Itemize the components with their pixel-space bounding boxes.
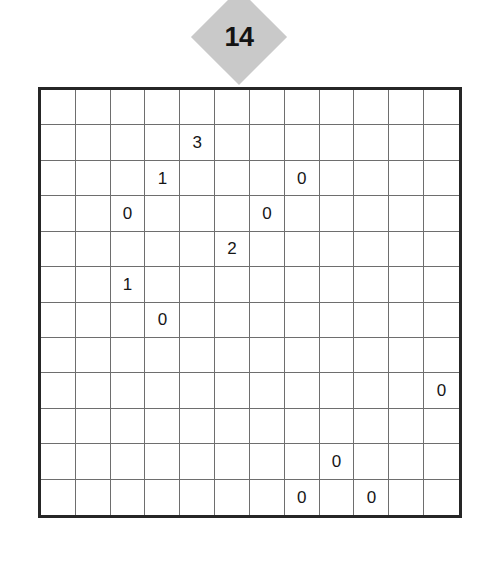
grid-cell-empty[interactable] bbox=[320, 480, 355, 515]
grid-cell-empty[interactable] bbox=[389, 444, 424, 479]
grid-cell-empty[interactable] bbox=[41, 267, 76, 302]
grid-cell-clue[interactable]: 2 bbox=[215, 232, 250, 267]
grid-cell-empty[interactable] bbox=[320, 267, 355, 302]
grid-cell-empty[interactable] bbox=[41, 196, 76, 231]
grid-cell-empty[interactable] bbox=[424, 338, 459, 373]
grid-cell-empty[interactable] bbox=[76, 232, 111, 267]
grid-cell-empty[interactable] bbox=[389, 125, 424, 160]
grid-cell-empty[interactable] bbox=[180, 373, 215, 408]
grid-cell-empty[interactable] bbox=[76, 161, 111, 196]
grid-cell-empty[interactable] bbox=[250, 161, 285, 196]
grid-cell-empty[interactable] bbox=[389, 480, 424, 515]
grid-cell-empty[interactable] bbox=[111, 303, 146, 338]
grid-cell-empty[interactable] bbox=[145, 373, 180, 408]
grid-cell-empty[interactable] bbox=[250, 480, 285, 515]
grid-cell-empty[interactable] bbox=[215, 480, 250, 515]
grid-cell-empty[interactable] bbox=[354, 125, 389, 160]
grid-cell-empty[interactable] bbox=[111, 90, 146, 125]
grid-cell-empty[interactable] bbox=[215, 444, 250, 479]
grid-cell-empty[interactable] bbox=[215, 161, 250, 196]
grid-cell-empty[interactable] bbox=[145, 90, 180, 125]
grid-cell-empty[interactable] bbox=[354, 196, 389, 231]
grid-cell-clue[interactable]: 0 bbox=[285, 161, 320, 196]
grid-cell-empty[interactable] bbox=[180, 267, 215, 302]
grid-cell-empty[interactable] bbox=[389, 196, 424, 231]
grid-cell-empty[interactable] bbox=[320, 373, 355, 408]
grid-cell-empty[interactable] bbox=[354, 444, 389, 479]
grid-cell-empty[interactable] bbox=[285, 409, 320, 444]
grid-cell-empty[interactable] bbox=[250, 125, 285, 160]
grid-cell-empty[interactable] bbox=[145, 125, 180, 160]
grid-cell-empty[interactable] bbox=[320, 196, 355, 231]
grid-cell-empty[interactable] bbox=[250, 232, 285, 267]
grid-cell-empty[interactable] bbox=[76, 90, 111, 125]
grid-cell-empty[interactable] bbox=[285, 338, 320, 373]
grid-cell-clue[interactable]: 0 bbox=[424, 373, 459, 408]
grid-cell-clue[interactable]: 0 bbox=[320, 444, 355, 479]
grid-cell-empty[interactable] bbox=[180, 161, 215, 196]
grid-cell-empty[interactable] bbox=[180, 444, 215, 479]
grid-cell-empty[interactable] bbox=[320, 232, 355, 267]
grid-cell-empty[interactable] bbox=[354, 303, 389, 338]
grid-cell-empty[interactable] bbox=[111, 125, 146, 160]
grid-cell-empty[interactable] bbox=[250, 373, 285, 408]
grid-cell-empty[interactable] bbox=[424, 161, 459, 196]
grid-cell-empty[interactable] bbox=[424, 267, 459, 302]
grid-cell-empty[interactable] bbox=[76, 303, 111, 338]
grid-cell-clue[interactable]: 0 bbox=[145, 303, 180, 338]
grid-cell-empty[interactable] bbox=[320, 338, 355, 373]
grid-cell-empty[interactable] bbox=[389, 267, 424, 302]
grid-cell-empty[interactable] bbox=[424, 480, 459, 515]
grid-cell-empty[interactable] bbox=[215, 409, 250, 444]
grid-cell-empty[interactable] bbox=[111, 444, 146, 479]
grid-cell-empty[interactable] bbox=[354, 232, 389, 267]
grid-cell-empty[interactable] bbox=[285, 232, 320, 267]
grid-cell-empty[interactable] bbox=[250, 409, 285, 444]
grid-cell-empty[interactable] bbox=[389, 303, 424, 338]
grid-cell-empty[interactable] bbox=[41, 444, 76, 479]
grid-cell-clue[interactable]: 0 bbox=[354, 480, 389, 515]
grid-cell-empty[interactable] bbox=[41, 303, 76, 338]
grid-cell-empty[interactable] bbox=[389, 90, 424, 125]
grid-cell-empty[interactable] bbox=[41, 373, 76, 408]
grid-cell-empty[interactable] bbox=[215, 196, 250, 231]
grid-cell-empty[interactable] bbox=[424, 196, 459, 231]
grid-cell-empty[interactable] bbox=[215, 125, 250, 160]
grid-cell-empty[interactable] bbox=[389, 338, 424, 373]
grid-cell-empty[interactable] bbox=[76, 480, 111, 515]
grid-cell-empty[interactable] bbox=[285, 267, 320, 302]
grid-cell-empty[interactable] bbox=[76, 444, 111, 479]
grid-cell-empty[interactable] bbox=[180, 232, 215, 267]
grid-cell-empty[interactable] bbox=[250, 267, 285, 302]
grid-cell-empty[interactable] bbox=[145, 196, 180, 231]
grid-cell-empty[interactable] bbox=[285, 373, 320, 408]
grid-cell-empty[interactable] bbox=[285, 444, 320, 479]
grid-cell-empty[interactable] bbox=[76, 373, 111, 408]
grid-cell-empty[interactable] bbox=[41, 90, 76, 125]
grid-cell-empty[interactable] bbox=[41, 409, 76, 444]
grid-cell-empty[interactable] bbox=[215, 267, 250, 302]
grid-cell-clue[interactable]: 0 bbox=[250, 196, 285, 231]
grid-cell-empty[interactable] bbox=[354, 409, 389, 444]
grid-cell-empty[interactable] bbox=[145, 444, 180, 479]
grid-cell-empty[interactable] bbox=[145, 409, 180, 444]
grid-cell-empty[interactable] bbox=[180, 409, 215, 444]
grid-cell-empty[interactable] bbox=[180, 338, 215, 373]
grid-cell-empty[interactable] bbox=[145, 338, 180, 373]
grid-cell-empty[interactable] bbox=[424, 125, 459, 160]
grid-cell-empty[interactable] bbox=[215, 90, 250, 125]
grid-cell-empty[interactable] bbox=[285, 303, 320, 338]
grid-cell-empty[interactable] bbox=[250, 444, 285, 479]
grid-cell-empty[interactable] bbox=[111, 232, 146, 267]
grid-cell-empty[interactable] bbox=[180, 90, 215, 125]
grid-cell-empty[interactable] bbox=[424, 232, 459, 267]
grid-cell-empty[interactable] bbox=[76, 338, 111, 373]
grid-cell-empty[interactable] bbox=[250, 303, 285, 338]
grid-cell-empty[interactable] bbox=[41, 338, 76, 373]
grid-cell-empty[interactable] bbox=[41, 232, 76, 267]
grid-cell-empty[interactable] bbox=[354, 267, 389, 302]
grid-cell-empty[interactable] bbox=[285, 125, 320, 160]
grid-cell-empty[interactable] bbox=[41, 480, 76, 515]
grid-cell-empty[interactable] bbox=[354, 338, 389, 373]
grid-cell-empty[interactable] bbox=[424, 303, 459, 338]
